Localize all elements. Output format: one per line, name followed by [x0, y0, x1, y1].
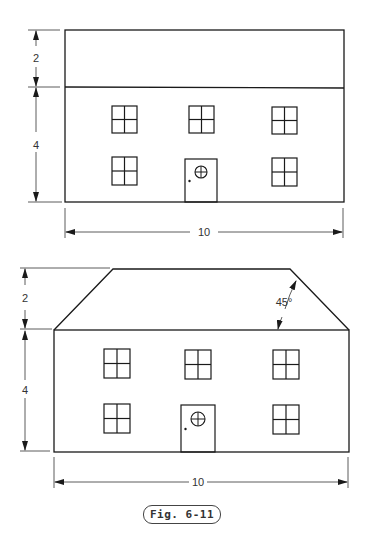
bottom-dim-roof-height: 2 — [22, 292, 28, 304]
top-house-figure: 2 4 10 — [28, 30, 344, 238]
bottom-horizontal-dimension: 10 — [54, 457, 348, 488]
bottom-vertical-dimensions: 2 4 — [20, 268, 110, 451]
bottom-windows — [104, 349, 299, 434]
bottom-hip-roof — [54, 269, 349, 330]
house-drawings: 2 4 10 — [0, 0, 367, 542]
top-vertical-dimensions: 2 4 — [28, 30, 62, 202]
roof-angle-annotation: 45° — [276, 281, 296, 329]
bottom-door — [181, 405, 215, 452]
roof-angle-label: 45° — [276, 296, 293, 308]
top-dim-roof-height: 2 — [33, 52, 39, 64]
bottom-house-outline — [54, 330, 349, 452]
top-door — [185, 159, 217, 202]
top-windows — [112, 106, 297, 186]
bottom-house-figure: 45° 2 4 10 — [20, 268, 349, 488]
top-dim-wall-height: 4 — [33, 139, 39, 151]
top-roof-line — [65, 87, 344, 88]
bottom-dim-width: 10 — [192, 476, 204, 488]
figure-caption: Fig. 6-11 — [143, 505, 221, 524]
top-horizontal-dimension: 10 — [65, 208, 343, 238]
bottom-dim-wall-height: 4 — [22, 384, 28, 396]
top-dim-width: 10 — [198, 226, 210, 238]
